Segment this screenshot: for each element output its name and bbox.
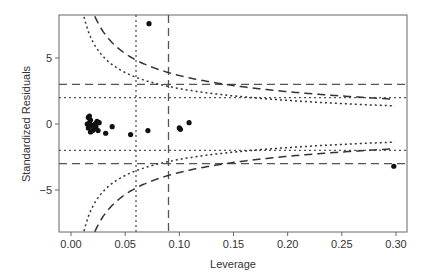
data-point — [128, 132, 133, 137]
data-point — [85, 121, 90, 126]
cooks-curve-inner-lower — [84, 142, 395, 231]
y-tick-label: −5 — [39, 184, 52, 196]
data-point — [103, 131, 108, 136]
x-tick-label: 0.00 — [60, 238, 81, 250]
data-point — [178, 127, 183, 132]
x-tick-label: 0.30 — [385, 238, 406, 250]
data-point — [97, 120, 102, 125]
data-point — [186, 120, 191, 125]
data-point — [87, 113, 92, 118]
cooks-curve-outer-lower — [95, 149, 395, 232]
x-tick-label: 0.20 — [277, 238, 298, 250]
x-axis-label: Leverage — [210, 258, 256, 270]
data-point — [95, 128, 100, 133]
x-tick-label: 0.10 — [169, 238, 190, 250]
plot-frame — [59, 15, 407, 232]
data-points — [85, 21, 397, 169]
y-axis: −505 — [39, 52, 59, 196]
data-point — [391, 164, 396, 169]
reference-lines — [59, 15, 407, 232]
data-point — [110, 124, 115, 129]
x-tick-label: 0.05 — [114, 238, 135, 250]
data-point — [146, 21, 151, 26]
data-point — [145, 128, 150, 133]
x-tick-label: 0.15 — [223, 238, 244, 250]
cooks-distance-curves — [84, 16, 395, 232]
x-tick-label: 0.25 — [331, 238, 352, 250]
x-axis: 0.000.050.100.150.200.250.30 — [60, 232, 406, 250]
y-tick-label: 5 — [46, 52, 52, 64]
leverage-residual-plot: 0.000.050.100.150.200.250.30 −505 Levera… — [0, 0, 427, 280]
cooks-curve-outer-upper — [95, 16, 395, 99]
y-axis-label: Standardized Residuals — [20, 65, 32, 182]
cooks-curve-inner-upper — [84, 17, 395, 106]
y-tick-label: 0 — [46, 118, 52, 130]
